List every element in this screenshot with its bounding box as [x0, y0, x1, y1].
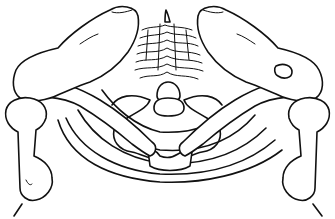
- vertebra-body: [154, 82, 184, 116]
- anatomy-illustration: [0, 0, 335, 219]
- left-scapula: [13, 7, 138, 101]
- left-humerus: [6, 98, 53, 216]
- right-scapula: [197, 7, 322, 101]
- thorax-shoulder-drawing: [0, 0, 335, 219]
- vertebral-column: [135, 10, 203, 79]
- right-humerus: [283, 98, 330, 216]
